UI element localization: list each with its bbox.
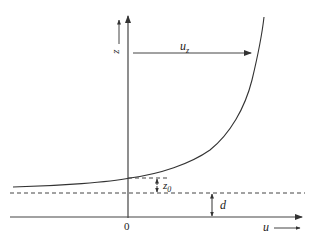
z0-label: z0	[163, 180, 171, 194]
velocity-profile-curve	[13, 17, 264, 187]
uz-label: uz	[180, 40, 189, 55]
log-wind-profile-diagram: z uz z0 d 0 u	[0, 0, 312, 240]
origin-label: 0	[124, 221, 130, 232]
diagram-canvas	[0, 0, 312, 240]
u-axis-label: u	[263, 221, 269, 233]
d-label: d	[220, 199, 226, 211]
z-axis-label: z	[110, 49, 121, 53]
